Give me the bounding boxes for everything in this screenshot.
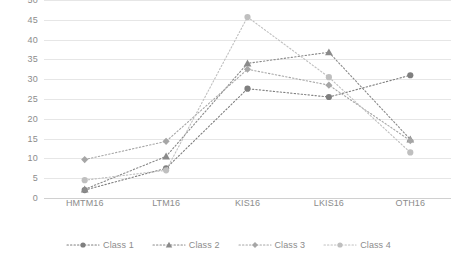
y-tick-label: 20 xyxy=(28,114,38,124)
data-point-diamond-marker xyxy=(407,137,414,144)
legend-item-3[interactable]: Class 3 xyxy=(238,240,306,250)
series-line xyxy=(85,17,411,180)
y-tick-label: 35 xyxy=(28,54,38,64)
legend-item-1[interactable]: Class 1 xyxy=(66,240,134,250)
legend-item-label: Class 3 xyxy=(275,240,306,250)
x-tick-label: LTM16 xyxy=(152,198,180,208)
y-axis: 05101520253035404550 xyxy=(0,0,44,230)
data-point-diamond-marker xyxy=(163,138,170,145)
x-tick-label: KIS16 xyxy=(235,198,260,208)
y-tick-label: 30 xyxy=(28,74,38,84)
y-tick-label: 50 xyxy=(28,0,38,5)
y-tick-label: 0 xyxy=(33,193,38,203)
line-chart: 05101520253035404550 HMTM16LTM16KIS16LKI… xyxy=(0,0,457,266)
x-tick-label: HMTM16 xyxy=(66,198,104,208)
legend-item-label: Class 4 xyxy=(360,240,391,250)
legend-item-label: Class 1 xyxy=(103,240,134,250)
data-point-diamond-marker xyxy=(325,82,332,89)
data-point-circle-marker xyxy=(407,72,413,78)
y-tick-label: 45 xyxy=(28,15,38,25)
y-tick-label: 25 xyxy=(28,94,38,104)
legend-diamond-icon xyxy=(238,240,272,250)
data-point-circle-marker xyxy=(326,94,332,100)
y-tick-label: 15 xyxy=(28,134,38,144)
legend-item-label: Class 2 xyxy=(189,240,220,250)
legend-circle-icon xyxy=(323,240,357,250)
legend-triangle-icon xyxy=(152,240,186,250)
data-point-circle-marker xyxy=(326,74,332,80)
x-axis: HMTM16LTM16KIS16LKIS16OTH16 xyxy=(44,198,451,220)
data-point-circle-marker xyxy=(244,86,250,92)
series-layer xyxy=(44,0,451,230)
series-line xyxy=(85,75,411,190)
y-tick-label: 40 xyxy=(28,35,38,45)
y-tick-label: 5 xyxy=(33,173,38,183)
series-4 xyxy=(82,14,414,183)
legend-item-2[interactable]: Class 2 xyxy=(152,240,220,250)
chart-legend: Class 1Class 2Class 3Class 4 xyxy=(0,232,457,258)
data-point-triangle-marker xyxy=(325,48,333,55)
x-tick-label: OTH16 xyxy=(396,198,426,208)
gridlines-and-series xyxy=(44,0,451,230)
series-line xyxy=(85,69,411,159)
data-point-circle-marker xyxy=(244,14,250,20)
data-point-diamond-marker xyxy=(81,156,88,163)
data-point-circle-marker xyxy=(82,177,88,183)
x-tick-label: LKIS16 xyxy=(314,198,344,208)
y-tick-label: 10 xyxy=(28,153,38,163)
data-point-circle-marker xyxy=(163,167,169,173)
legend-item-4[interactable]: Class 4 xyxy=(323,240,391,250)
series-3 xyxy=(81,66,414,163)
legend-circle-icon xyxy=(66,240,100,250)
data-point-circle-marker xyxy=(407,149,413,155)
plot-area: 05101520253035404550 HMTM16LTM16KIS16LKI… xyxy=(0,0,457,230)
